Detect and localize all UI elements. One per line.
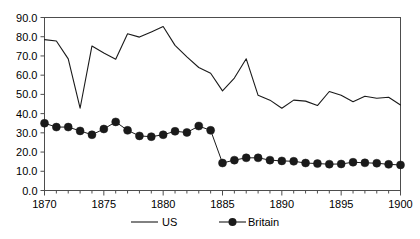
series-marker-britain [100,125,108,133]
y-tick-label: 60.0 [16,69,37,81]
line-chart: 0.010.020.030.040.050.060.070.080.090.0 … [0,0,420,239]
series-marker-britain [337,160,345,168]
series-marker-britain [195,122,203,130]
series-marker-britain [373,159,381,167]
series-marker-britain [349,158,357,166]
series-marker-britain [302,159,310,167]
series-marker-britain [41,119,49,127]
x-tick-label: 1875 [92,198,116,210]
series-marker-britain [242,154,250,162]
series-marker-britain [135,132,143,140]
series-marker-britain [278,157,286,165]
series-marker-britain [52,123,60,131]
legend-label-us: US [162,216,177,228]
series-marker-britain [266,156,274,164]
x-tick-label: 1880 [151,198,175,210]
series-marker-britain [230,156,238,164]
series-marker-britain [397,161,405,169]
series-marker-britain [159,131,167,139]
series-marker-britain [112,118,120,126]
series-marker-britain [385,160,393,168]
x-tick-label: 1890 [270,198,294,210]
series-marker-britain [88,131,96,139]
series-marker-britain [171,127,179,135]
y-tick-label: 10.0 [16,165,37,177]
x-tick-label: 1870 [32,198,56,210]
chart-container: 0.010.020.030.040.050.060.070.080.090.0 … [0,0,420,239]
legend-label-britain: Britain [248,216,279,228]
series-marker-britain [147,133,155,141]
series-marker-britain [361,159,369,167]
series-marker-britain [64,123,72,131]
series-marker-britain [219,159,227,167]
series-marker-britain [254,154,262,162]
series-marker-britain [313,160,321,168]
y-tick-label: 0.0 [22,185,37,197]
y-tick-label: 80.0 [16,31,37,43]
x-tick-label: 1900 [388,198,412,210]
series-marker-britain [183,128,191,136]
series-marker-britain [76,127,84,135]
y-tick-label: 70.0 [16,50,37,62]
y-tick-label: 40.0 [16,108,37,120]
series-marker-britain [290,157,298,165]
x-tick-label: 1885 [210,198,234,210]
y-tick-label: 90.0 [16,12,37,24]
y-tick-label: 50.0 [16,88,37,100]
y-tick-label: 20.0 [16,146,37,158]
legend-swatch-marker-britain [229,218,237,226]
series-marker-britain [207,126,215,134]
series-marker-britain [124,126,132,134]
x-tick-label: 1895 [329,198,353,210]
y-tick-label: 30.0 [16,127,37,139]
series-marker-britain [325,160,333,168]
